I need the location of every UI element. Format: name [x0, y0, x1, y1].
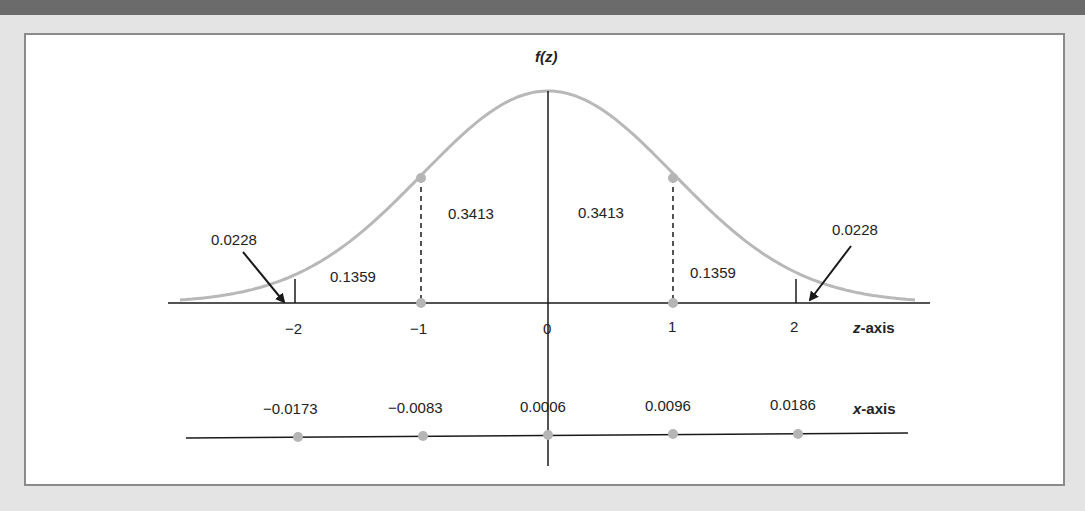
x-axis-point	[418, 431, 428, 441]
x-axis-title: x-axis	[852, 400, 896, 417]
area-label-center-left: 0.3413	[448, 205, 494, 222]
area-label-band-right: 0.1359	[690, 264, 736, 281]
fz-label: f(z)	[535, 48, 558, 65]
z-tick-label: 1	[668, 318, 676, 335]
axis-point-minus1	[416, 298, 426, 308]
z-tick-label: 2	[790, 318, 798, 335]
x-tick-label: 0.0096	[645, 397, 691, 414]
curve-point-plus1	[668, 173, 678, 183]
x-tick-label: −0.0173	[263, 400, 318, 417]
area-label-band-left: 0.1359	[330, 268, 376, 285]
normal-distribution-chart: f(z) 0.0228 0.0228 0.1359 0.1359 0.3413 …	[0, 0, 1085, 511]
x-tick-label: 0.0006	[520, 398, 566, 415]
z-axis-title: z-axis	[852, 319, 895, 336]
x-tick-label: 0.0186	[770, 396, 816, 413]
x-axis-suffix: -axis	[861, 400, 895, 417]
curve-point-minus1	[416, 173, 426, 183]
z-tick-label: 0	[543, 320, 551, 337]
x-axis-point	[293, 432, 303, 442]
z-tick-label: −1	[410, 320, 427, 337]
area-label-center-right: 0.3413	[578, 204, 624, 221]
x-axis-point	[668, 429, 678, 439]
x-tick-label: −0.0083	[388, 399, 443, 416]
axis-point-plus1	[668, 298, 678, 308]
arrow-right-tail	[810, 246, 851, 300]
x-axis-point	[543, 430, 553, 440]
x-axis-point	[793, 429, 803, 439]
area-label-tail-left: 0.0228	[211, 231, 257, 248]
z-axis-suffix: -axis	[861, 319, 895, 336]
area-label-tail-right: 0.0228	[832, 221, 878, 238]
z-tick-label: −2	[285, 320, 302, 337]
arrow-left-tail	[243, 252, 284, 302]
